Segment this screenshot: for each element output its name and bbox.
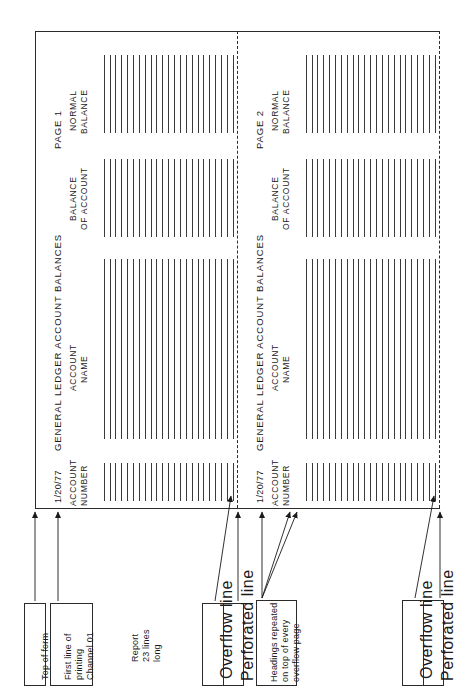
printed-line <box>400 259 401 439</box>
printed-line <box>429 159 430 237</box>
printed-line <box>370 259 371 439</box>
column-head-2-account-name-l1: ACCOUNT <box>271 344 281 391</box>
printed-line <box>168 463 169 501</box>
printed-line <box>435 259 436 439</box>
printed-line <box>227 55 228 133</box>
column-head-1-account-number-l2: NUMBER <box>80 465 90 506</box>
printed-line <box>358 55 359 133</box>
printed-line <box>127 55 128 133</box>
callout-perforated-line-1[interactable]: Perforated line <box>223 604 243 685</box>
printed-line <box>198 159 199 237</box>
printed-line <box>233 55 234 133</box>
printed-line <box>353 259 354 439</box>
printed-line <box>203 463 204 501</box>
printed-line <box>435 159 436 237</box>
printed-page-1: PAGE 1 GENERAL LEDGER ACCOUNT BALANCES 1… <box>35 31 237 508</box>
printed-line <box>417 259 418 439</box>
printed-line <box>174 259 175 439</box>
printed-line <box>198 55 199 133</box>
printed-line <box>312 259 313 439</box>
printed-line <box>233 159 234 237</box>
detail-lines-2-balance <box>303 159 438 237</box>
printed-line <box>353 55 354 133</box>
printed-line <box>335 259 336 439</box>
printed-line <box>341 463 342 501</box>
printed-line <box>405 55 406 133</box>
printed-line <box>174 463 175 501</box>
printed-line <box>394 55 395 133</box>
printed-line <box>186 463 187 501</box>
form-bottom-edge <box>35 508 440 509</box>
detail-lines-2-normal-balance <box>303 55 438 133</box>
callout-first-line-l3: Channel 01 <box>85 632 96 680</box>
printed-line <box>358 159 359 237</box>
report-date-1: 1/20/77 <box>53 470 63 503</box>
printed-line <box>358 259 359 439</box>
note-report-length: Report 23 lines long <box>128 600 168 686</box>
column-head-1-balance-l1: BALANCE <box>69 176 79 221</box>
printed-line <box>329 55 330 133</box>
printed-line <box>317 55 318 133</box>
printed-line <box>405 259 406 439</box>
printed-line <box>104 159 105 237</box>
printed-line <box>417 55 418 133</box>
printed-line <box>417 159 418 237</box>
column-head-2-normal-balance-l1: NORMAL <box>271 90 281 131</box>
printed-line <box>317 463 318 501</box>
printed-line <box>335 159 336 237</box>
printed-line <box>435 463 436 501</box>
column-head-2-account-number-l1: ACCOUNT <box>271 459 281 506</box>
printed-line <box>151 259 152 439</box>
printed-line <box>209 159 210 237</box>
callout-first-line-of-printing[interactable]: First line of printing Channel 01 <box>50 603 93 686</box>
printed-line <box>221 159 222 237</box>
printed-line <box>209 259 210 439</box>
printed-line <box>382 159 383 237</box>
printed-line <box>192 259 193 439</box>
printed-line <box>192 463 193 501</box>
printed-line <box>382 463 383 501</box>
printed-line <box>364 55 365 133</box>
perforated-line-page2 <box>439 31 440 508</box>
callout-top-of-form[interactable]: Top of form <box>24 603 46 686</box>
printed-line <box>329 259 330 439</box>
printed-line <box>341 159 342 237</box>
printed-line <box>198 463 199 501</box>
printed-line <box>376 159 377 237</box>
callout-overflow-line-1[interactable]: Overflow line <box>203 604 223 685</box>
callout-group-page2-lines[interactable]: Overflow line Perforated line <box>402 600 444 686</box>
printed-line <box>110 259 111 439</box>
callout-headings-repeated[interactable]: Headings repeated on top of every overfl… <box>256 600 297 686</box>
callout-overflow-line-2[interactable]: Overflow line <box>403 601 423 685</box>
callout-group-page1-lines[interactable]: Overflow line Perforated line <box>202 603 244 686</box>
printed-line <box>376 259 377 439</box>
page-label-2: PAGE 2 <box>255 110 266 149</box>
printed-line <box>127 159 128 237</box>
printed-line <box>312 159 313 237</box>
printed-line <box>423 259 424 439</box>
printed-line <box>192 55 193 133</box>
printed-line <box>145 463 146 501</box>
printed-line <box>370 55 371 133</box>
note-report-length-l3: long <box>152 644 163 662</box>
printed-line <box>347 259 348 439</box>
printed-line <box>394 159 395 237</box>
printed-line <box>215 463 216 501</box>
printed-line <box>364 159 365 237</box>
printed-line <box>417 463 418 501</box>
report-date-2: 1/20/77 <box>255 470 265 503</box>
printed-line <box>394 463 395 501</box>
column-head-2-account-number-l2: NUMBER <box>282 465 292 506</box>
printed-line <box>323 159 324 237</box>
callout-perforated-line-2[interactable]: Perforated line <box>423 601 443 685</box>
printed-line <box>347 55 348 133</box>
column-head-1-account-number-l1: ACCOUNT <box>69 459 79 506</box>
detail-lines-1-balance <box>101 159 236 237</box>
printed-line <box>162 463 163 501</box>
printed-line <box>127 259 128 439</box>
printed-line <box>329 463 330 501</box>
printed-line <box>411 463 412 501</box>
printed-line <box>405 463 406 501</box>
printed-line <box>317 259 318 439</box>
column-head-1-normal-balance-l1: NORMAL <box>69 90 79 131</box>
